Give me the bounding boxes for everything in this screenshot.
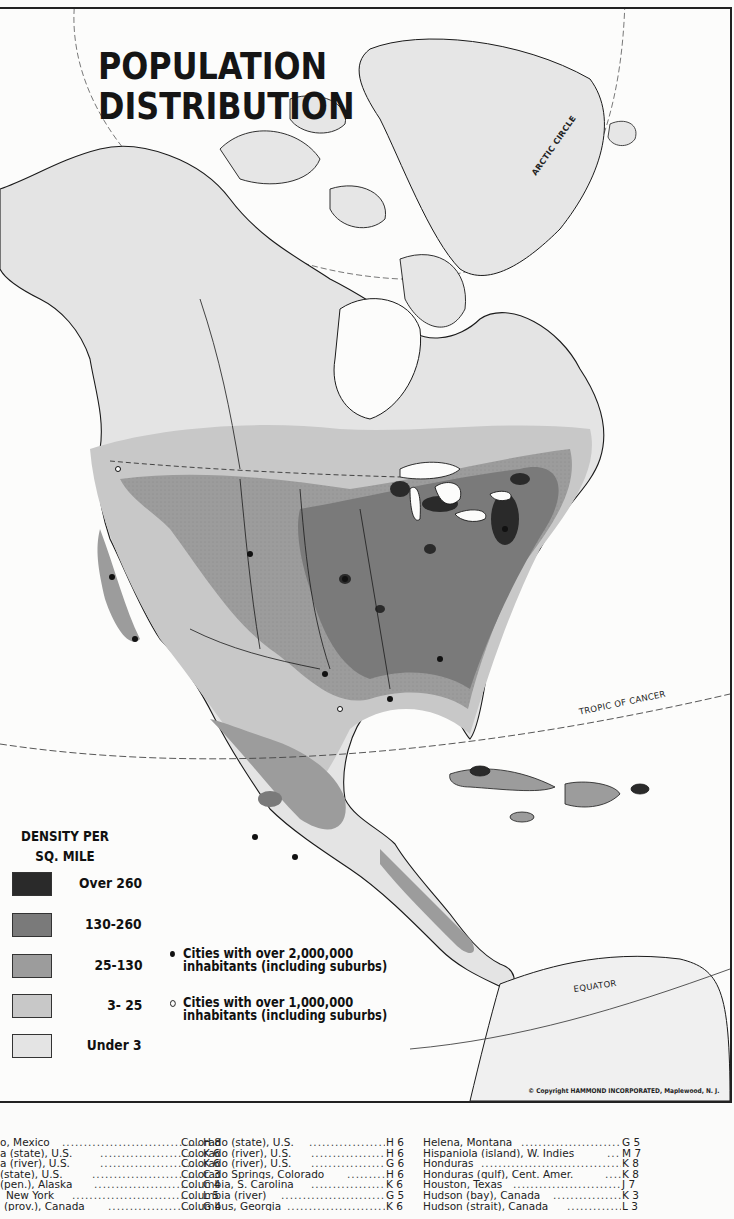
legend-swatch bbox=[12, 1034, 52, 1058]
filled-dot-icon bbox=[170, 951, 175, 957]
greenland bbox=[359, 39, 604, 275]
index-column-2: Colorado (state), U.S...................… bbox=[181, 1137, 421, 1211]
index-entry: Hispaniola (island), W. Indies...M 7 bbox=[423, 1148, 663, 1159]
index-entry: Columbia, S. Carolina...................… bbox=[181, 1179, 421, 1190]
legend-title: DENSITY PER SQ. MILE bbox=[10, 826, 121, 866]
legend-item-25-130: 25-130 bbox=[12, 954, 142, 980]
legend-label: 130-260 bbox=[85, 916, 142, 932]
legend-item-under-3: Under 3 bbox=[12, 1034, 142, 1060]
index-column-3: Helena, Montana.........................… bbox=[423, 1137, 663, 1211]
map-panel: POPULATION DISTRIBUTION ARCTIC CIRCLE TR… bbox=[0, 7, 732, 1103]
iceland bbox=[608, 121, 636, 145]
legend-item-over-260: Over 260 bbox=[12, 872, 142, 898]
map-title: POPULATION DISTRIBUTION bbox=[98, 47, 355, 127]
index-entry: Columbus, Georgia.......................… bbox=[181, 1201, 421, 1212]
index-entry: Hudson (bay), Canada.................K 3 bbox=[423, 1190, 663, 1201]
legend-item-130-260: 130-260 bbox=[12, 913, 142, 939]
index-entry: Helena, Montana.........................… bbox=[423, 1137, 663, 1148]
index-entry: Colorado (river), U.S...................… bbox=[181, 1148, 421, 1159]
legend-swatch bbox=[12, 913, 52, 937]
index-entry: Honduras................................… bbox=[423, 1158, 663, 1169]
legend-label: Under 3 bbox=[87, 1037, 142, 1053]
legend-swatch bbox=[12, 872, 52, 896]
legend-swatch bbox=[12, 954, 52, 978]
index-entry: Colorado (state), U.S...................… bbox=[181, 1137, 421, 1148]
legend-label: 25-130 bbox=[94, 957, 142, 973]
index-entry: Honduras (gulf), Cent. Amer.....K 8 bbox=[423, 1169, 663, 1180]
index-entry: Colorado (river), U.S...................… bbox=[181, 1158, 421, 1169]
place-index: o, Mexico...............................… bbox=[0, 1137, 734, 1219]
index-entry: Houston, Texas..........................… bbox=[423, 1179, 663, 1190]
legend-label: 3- 25 bbox=[107, 997, 142, 1013]
legend-city-1m: Cities with over 1,000,000 inhabitants (… bbox=[170, 996, 387, 1022]
index-entry: Columbia (river)........................… bbox=[181, 1190, 421, 1201]
caribbean-islands bbox=[450, 766, 649, 822]
index-entry: Hudson (strait), Canada.............L 3 bbox=[423, 1201, 663, 1212]
legend-swatch bbox=[12, 994, 52, 1018]
legend-item-3-25: 3- 25 bbox=[12, 994, 142, 1020]
copyright-notice: © Copyright HAMMOND INCORPORATED, Maplew… bbox=[529, 1087, 720, 1095]
index-entry: Colorado Springs, Colorado.........H 6 bbox=[181, 1169, 421, 1180]
legend-label: Over 260 bbox=[79, 875, 142, 891]
open-dot-icon bbox=[170, 1000, 176, 1007]
legend-city-2m: Cities with over 2,000,000 inhabitants (… bbox=[170, 947, 387, 973]
